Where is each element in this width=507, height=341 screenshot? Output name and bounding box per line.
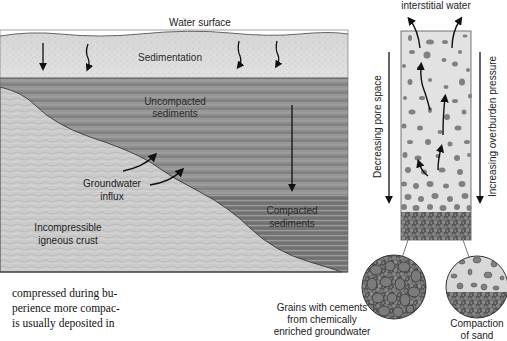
cement-caption-line1: Grains with cements (262, 302, 382, 313)
sand-compaction-inset (446, 256, 507, 322)
cement-caption-line2: from chemically (262, 314, 382, 325)
uncompacted-label-line2: sediments (125, 108, 225, 119)
cement-caption-line3: enriched groundwater (262, 326, 382, 337)
groundwater-label-line2: influx (62, 191, 162, 202)
sand-caption-line2: of sand (437, 330, 507, 341)
overburden-axis-label: Increasing overburden pressure (487, 54, 498, 200)
crust-label-line1: Incompressible (18, 222, 118, 233)
body-text-line: is usually deposited in (0, 316, 120, 331)
sedimentation-label: Sedimentation (120, 52, 220, 63)
sand-caption-line1: Compaction (437, 318, 507, 329)
compacted-label-line2: sediments (242, 218, 342, 229)
compacted-label-line1: Compacted (242, 205, 342, 216)
body-text: compressed during bu- perience more comp… (0, 286, 120, 331)
compaction-column (389, 20, 480, 258)
body-text-line: perience more compac- (0, 301, 120, 316)
crust-label-line2: igneous crust (18, 235, 118, 246)
pore-space-axis-label: Decreasing pore space (372, 67, 383, 187)
body-text-line: compressed during bu- (0, 286, 120, 301)
water-surface-label: Water surface (145, 17, 255, 28)
uncompacted-label-line1: Uncompacted (125, 96, 225, 107)
interstitial-water-label: interstitial water (386, 0, 486, 11)
groundwater-label-line1: Groundwater (62, 178, 162, 189)
